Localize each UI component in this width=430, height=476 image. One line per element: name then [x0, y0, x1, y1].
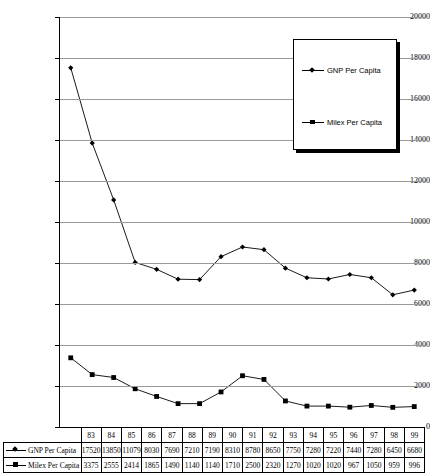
series-line-1: [71, 358, 415, 408]
table-cell-1-90: 1710: [222, 458, 242, 473]
table-cell-1-87: 1490: [162, 458, 182, 473]
table-cell-0-86: 8030: [142, 443, 162, 458]
table-col-header-86: 86: [142, 428, 162, 443]
data-point-0-83: [68, 65, 73, 70]
table-col-header-92: 92: [263, 428, 283, 443]
table-body: GNP Per Capita17520138501107980307690721…: [4, 443, 425, 473]
table-cell-0-83: 17520: [81, 443, 101, 458]
legend-entry-gnp: GNP Per Capita: [302, 66, 381, 75]
table-row-label-1: Milex Per Capita: [4, 458, 82, 473]
table-cell-1-89: 1140: [202, 458, 222, 473]
y-tick-mark-8000: [55, 263, 59, 264]
table-cell-0-85: 11079: [121, 443, 141, 458]
table-cell-1-91: 2500: [243, 458, 263, 473]
table-cell-1-83: 3375: [81, 458, 101, 473]
data-point-0-91: [240, 244, 245, 249]
table-cell-0-98: 6450: [384, 443, 404, 458]
table-col-header-94: 94: [303, 428, 323, 443]
table-row-label-0: GNP Per Capita: [4, 443, 82, 458]
data-point-1-84: [90, 372, 95, 377]
table-col-header-85: 85: [121, 428, 141, 443]
data-point-1-98: [390, 405, 395, 410]
table-col-header-88: 88: [182, 428, 202, 443]
table-cell-1-96: 967: [344, 458, 364, 473]
chart-legend: GNP Per Capita Milex Per Capita: [293, 39, 397, 150]
y-tick-mark-14000: [55, 140, 59, 141]
table-cell-0-92: 8650: [263, 443, 283, 458]
legend-marker-diamond-icon: [302, 66, 324, 75]
data-point-0-96: [347, 272, 352, 277]
table-cell-1-98: 959: [384, 458, 404, 473]
data-point-0-85: [111, 197, 116, 202]
table-cell-1-99: 996: [404, 458, 424, 473]
data-point-0-88: [175, 277, 180, 282]
table-col-header-87: 87: [162, 428, 182, 443]
legend-marker-square-icon: [302, 118, 324, 127]
y-tick-mark-20000: [55, 17, 59, 18]
table-cell-0-90: 8310: [222, 443, 242, 458]
table-col-header-97: 97: [364, 428, 384, 443]
data-point-1-83: [68, 355, 73, 360]
table-col-header-99: 99: [404, 428, 424, 443]
row-marker-diamond-icon: [6, 446, 26, 455]
table-cell-0-93: 7750: [283, 443, 303, 458]
table-cell-0-99: 6680: [404, 443, 424, 458]
data-point-0-95: [326, 276, 331, 281]
data-point-1-94: [305, 404, 310, 409]
data-point-1-89: [197, 401, 202, 406]
table-cell-0-95: 7220: [323, 443, 343, 458]
line-chart: 0200040006000800010000120001400016000180…: [0, 0, 430, 476]
data-point-1-86: [133, 386, 138, 391]
table-col-header-95: 95: [323, 428, 343, 443]
data-table: 8384858687888990919293949596979899 GNP P…: [3, 427, 425, 473]
table-cell-1-86: 1865: [142, 458, 162, 473]
gridline-6000: [60, 304, 425, 305]
table-cell-0-87: 7690: [162, 443, 182, 458]
y-tick-mark-16000: [55, 99, 59, 100]
gridline-10000: [60, 222, 425, 223]
table-row: Milex Per Capita337525552414186514901140…: [4, 458, 425, 473]
y-tick-mark-6000: [55, 304, 59, 305]
legend-label-gnp: GNP Per Capita: [327, 66, 381, 75]
table-col-header-89: 89: [202, 428, 222, 443]
gridline-4000: [60, 345, 425, 346]
data-point-1-88: [176, 401, 181, 406]
table-cell-1-95: 1020: [323, 458, 343, 473]
table-col-header-96: 96: [344, 428, 364, 443]
y-tick-mark-18000: [55, 58, 59, 59]
table-cell-1-92: 2320: [263, 458, 283, 473]
data-point-1-96: [347, 405, 352, 410]
table-col-header-93: 93: [283, 428, 303, 443]
data-point-0-87: [154, 267, 159, 272]
table-cell-0-89: 7190: [202, 443, 222, 458]
table-cell-1-88: 1140: [182, 458, 202, 473]
y-tick-mark-12000: [55, 181, 59, 182]
data-point-1-99: [412, 404, 417, 409]
table-cell-1-94: 1020: [303, 458, 323, 473]
data-point-0-84: [90, 140, 95, 145]
gridline-8000: [60, 263, 425, 264]
table-cell-0-96: 7440: [344, 443, 364, 458]
table-cell-1-85: 2414: [121, 458, 141, 473]
legend-label-milex: Milex Per Capita: [327, 118, 382, 127]
data-point-0-99: [412, 287, 417, 292]
gridline-2000: [60, 386, 425, 387]
table-row-label-text: Milex Per Capita: [28, 461, 79, 470]
data-point-1-92: [262, 377, 267, 382]
gridline-12000: [60, 181, 425, 182]
data-point-1-87: [154, 394, 159, 399]
table-cell-1-93: 1270: [283, 458, 303, 473]
table-row-label-text: GNP Per Capita: [28, 446, 76, 455]
table-cell-0-84: 13850: [101, 443, 121, 458]
data-point-1-93: [283, 399, 288, 404]
y-tick-mark-4000: [55, 345, 59, 346]
table-header-row: 8384858687888990919293949596979899: [4, 428, 425, 443]
data-point-1-90: [219, 390, 224, 395]
table-cell-0-97: 7280: [364, 443, 384, 458]
table-col-header-90: 90: [222, 428, 242, 443]
data-point-1-95: [326, 404, 331, 409]
table-col-header-91: 91: [243, 428, 263, 443]
legend-entry-milex: Milex Per Capita: [302, 118, 382, 127]
table-corner-cell: [4, 428, 82, 443]
y-tick-mark-10000: [55, 222, 59, 223]
